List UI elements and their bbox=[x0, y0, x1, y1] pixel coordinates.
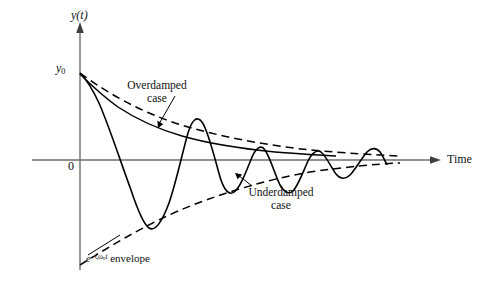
overdamped-annotation-line1: Overdamped bbox=[127, 79, 186, 91]
initial-value-subscript: 0 bbox=[61, 67, 65, 76]
envelope-exponent: −ζωnt bbox=[91, 252, 108, 261]
y-axis-label: y(t) bbox=[71, 9, 88, 22]
lower-envelope-curve bbox=[80, 163, 400, 265]
underdamped-leader-line bbox=[235, 173, 252, 186]
overdamped-annotation-line2: case bbox=[118, 92, 196, 104]
underdamped-annotation-line2: case bbox=[241, 199, 321, 211]
x-axis bbox=[32, 156, 441, 164]
damped-response-figure bbox=[0, 0, 485, 293]
envelope-word: envelope bbox=[107, 252, 149, 264]
initial-value-label: y0 bbox=[56, 62, 65, 77]
y-axis bbox=[76, 22, 84, 270]
origin-label: 0 bbox=[68, 160, 74, 173]
x-axis-label: Time bbox=[447, 153, 472, 166]
envelope-annotation: e−ζωnt envelope bbox=[86, 253, 150, 265]
underdamped-annotation: Underdampedcase bbox=[241, 186, 321, 211]
overdamped-annotation: Overdampedcase bbox=[118, 79, 196, 104]
underdamped-annotation-line1: Underdamped bbox=[248, 186, 313, 198]
